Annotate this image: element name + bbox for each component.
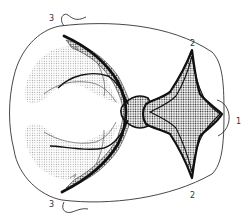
left-lower-fan — [25, 124, 120, 180]
label-2-top: 2 — [190, 39, 195, 48]
anatomical-diagram: 1 2 2 3 3 — [0, 0, 248, 224]
label-1: 1 — [236, 117, 241, 126]
label-2-bottom: 2 — [190, 191, 195, 200]
tab-bottom-icon — [63, 202, 88, 213]
label-3-bottom: 3 — [49, 200, 54, 209]
label-3-top: 3 — [49, 14, 54, 23]
